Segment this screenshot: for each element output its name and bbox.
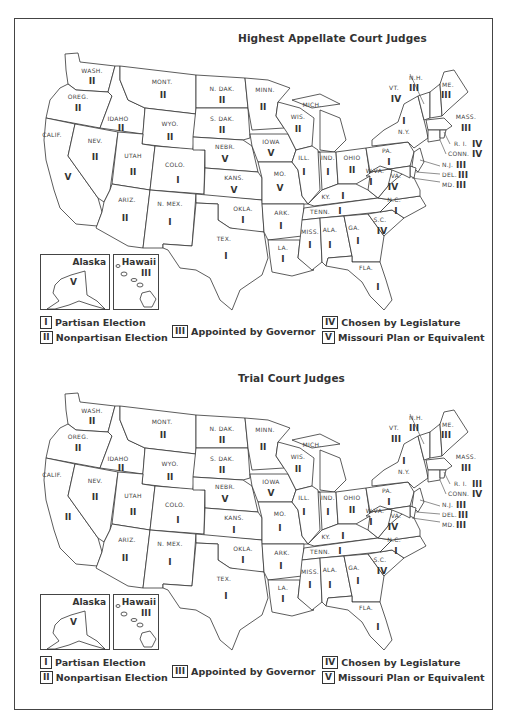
state-code-nebr: V (222, 494, 229, 504)
state-code-mass: III (461, 123, 471, 133)
state-code-tenn: I (338, 546, 341, 556)
state-code-calif: II (65, 512, 72, 522)
state-name-wyo: WYO. (162, 460, 179, 467)
state-name-utah: UTAH (124, 152, 141, 159)
state-name-pa: PA. (382, 147, 392, 154)
state-code-fla: I (376, 622, 379, 632)
state-code-me: III (441, 430, 451, 440)
state-mass (426, 118, 452, 130)
state-code-ark: I (279, 221, 282, 231)
state-code-wash: II (89, 416, 96, 426)
state-name-mont: MONT. (152, 418, 173, 425)
state-name-minn: MINN. (255, 86, 274, 93)
legend-partisan: I Partisan Election (40, 656, 146, 669)
state-code-iowa: V (268, 488, 275, 498)
state-name-vt: VT. (389, 84, 399, 91)
state-name-nmex: N. MEX. (157, 200, 182, 207)
legend-label: Missouri Plan or Equivalent (338, 672, 485, 683)
state-name-conn: CONN. (448, 490, 469, 497)
state-name-miss: MISS. (301, 568, 319, 575)
state-code-la: I (281, 254, 284, 264)
state-name-nev: NEV. (88, 477, 103, 484)
legend-code-box: III (172, 325, 188, 338)
state-code-nj: III (456, 160, 466, 170)
state-code-calif: V (65, 172, 72, 182)
state-code-ill: I (302, 167, 305, 177)
state-name-sdak: S. DAK. (210, 455, 234, 462)
hawaii-code: III (141, 608, 151, 618)
legend-code-box: III (172, 665, 188, 678)
state-sdak (193, 448, 250, 480)
legend-label: Appointed by Governor (191, 666, 316, 677)
state-code-pa: I (387, 497, 390, 507)
state-code-nc: I (394, 206, 397, 216)
state-code-mont: II (160, 90, 167, 100)
state-code-sc: IV (377, 226, 387, 236)
state-code-pa: I (387, 157, 390, 167)
state-name-wash: WASH. (81, 67, 102, 74)
alaska-name: Alaska (72, 597, 106, 607)
state-name-ohio: OHIO (344, 154, 361, 161)
state-name-ga: GA. (348, 564, 359, 571)
state-code-ky: I (341, 531, 344, 541)
state-name-pa: PA. (382, 487, 392, 494)
state-name-mont: MONT. (152, 78, 173, 85)
state-code-ind: I (326, 167, 329, 177)
state-code-va: IV (388, 182, 398, 192)
state-code-nmex: I (168, 217, 171, 227)
state-name-wis: WIS. (291, 113, 306, 120)
state-code-ny: I (402, 116, 405, 126)
state-name-ind: IND. (321, 494, 335, 501)
state-name-me: ME. (442, 421, 454, 428)
state-code-del: III (458, 510, 468, 520)
state-name-ny: N.Y. (398, 468, 410, 475)
state-code-tenn: I (338, 206, 341, 216)
state-name-ala: ALA. (323, 566, 338, 573)
state-code-minn: II (260, 442, 267, 452)
state-name-colo: COLO. (165, 501, 185, 508)
legend-code-box: V (322, 671, 335, 684)
state-name-sc: S.C. (373, 216, 386, 223)
state-code-nc: I (394, 546, 397, 556)
state-code-ark: I (279, 561, 282, 571)
state-code-miss: I (308, 240, 311, 250)
legend-label: Chosen by Legislature (341, 317, 460, 328)
state-code-nebr: V (222, 154, 229, 164)
state-name-mo: MO. (274, 170, 286, 177)
state-del (410, 166, 416, 178)
state-code-minn: II (260, 102, 267, 112)
state-name-okla: OKLA. (233, 545, 253, 552)
state-name-ohio: OHIO (344, 494, 361, 501)
state-name-vt: VT. (389, 424, 399, 431)
state-code-ri: IV (472, 139, 482, 149)
state-name-sc: S.C. (373, 556, 386, 563)
state-name-ri: R. I. (454, 480, 467, 487)
state-code-md: III (456, 520, 466, 530)
state-wyo (142, 448, 196, 490)
state-name-ind: IND. (321, 154, 335, 161)
state-code-ri: III (472, 479, 482, 489)
state-name-idaho: IDAHO (107, 115, 128, 122)
state-code-wis: II (295, 464, 302, 474)
state-code-utah: II (130, 167, 137, 177)
state-code-wash: II (89, 76, 96, 86)
legend-missouri-plan: V Missouri Plan or Equivalent (322, 671, 485, 684)
state-code-wis: II (295, 124, 302, 134)
hawaii-inset: Hawaii III (113, 594, 159, 650)
legend-code-box: IV (322, 316, 338, 329)
state-conn (428, 130, 440, 142)
state-mass (426, 458, 452, 470)
state-code-miss: I (308, 580, 311, 590)
legend-partisan: I Partisan Election (40, 316, 146, 329)
state-code-colo: I (176, 175, 179, 185)
legend-code-box: I (40, 656, 52, 669)
state-name-wis: WIS. (291, 453, 306, 460)
legend-appointed: III Appointed by Governor (172, 665, 316, 678)
state-code-ala: I (328, 580, 331, 590)
state-name-ala: ALA. (323, 226, 338, 233)
state-code-okla: I (241, 555, 244, 565)
state-code-kans: I (232, 525, 235, 535)
state-code-okla: I (241, 215, 244, 225)
state-name-colo: COLO. (165, 161, 185, 168)
state-name-nj: N.J. (442, 161, 453, 169)
